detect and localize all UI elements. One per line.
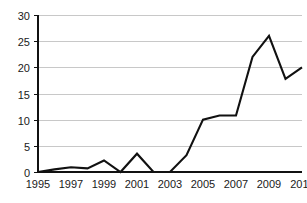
- line-chart: 051015202530 199519971999200120032005200…: [0, 0, 307, 203]
- x-tick-label: 1999: [92, 178, 116, 190]
- x-tick-label: 1997: [59, 178, 83, 190]
- x-axis-labels: 199519971999200120032005200720092011: [26, 178, 307, 190]
- y-tick-label: 0: [24, 167, 30, 179]
- x-tick-label: 2007: [224, 178, 248, 190]
- y-tick-label: 5: [24, 141, 30, 153]
- x-tick-label: 2001: [125, 178, 149, 190]
- y-tick-label: 25: [18, 36, 30, 48]
- y-tick-label: 10: [18, 115, 30, 127]
- y-tick-label: 15: [18, 89, 30, 101]
- x-tick-label: 2011: [290, 178, 307, 190]
- y-tick-label: 20: [18, 62, 30, 74]
- data-series-line: [38, 36, 302, 172]
- x-tick-label: 2003: [158, 178, 182, 190]
- x-tick-label: 2005: [191, 178, 215, 190]
- y-tick-label: 30: [18, 10, 30, 22]
- x-tick-label: 1995: [26, 178, 50, 190]
- y-axis-labels: 051015202530: [18, 10, 30, 179]
- chart-canvas: 051015202530 199519971999200120032005200…: [0, 0, 307, 203]
- gridlines: [38, 16, 302, 147]
- x-tick-label: 2009: [257, 178, 281, 190]
